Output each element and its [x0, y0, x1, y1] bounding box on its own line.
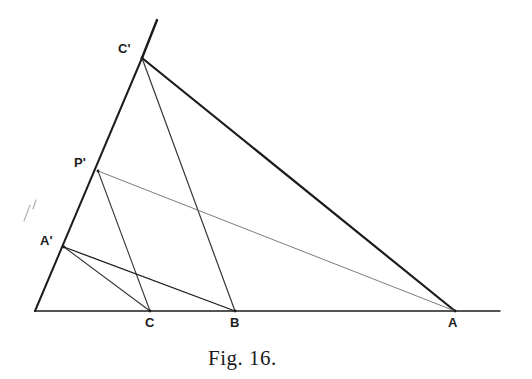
vertex-label-Cp: C' [118, 42, 130, 55]
artifact-group [24, 200, 36, 221]
segment-group [35, 20, 500, 311]
vertex-label-B: B [230, 316, 239, 329]
Ap-to-B [64, 247, 235, 311]
vertex-label-Ap: A' [40, 234, 52, 247]
figure-caption: Fig. 16. [208, 348, 277, 369]
vertex-dot-Cp [141, 57, 144, 60]
vertex-dot-Pp [97, 170, 100, 173]
scan-speck-lower [24, 205, 30, 221]
vertex-dot-Ap [63, 246, 66, 249]
vertex-dot-group [63, 57, 457, 313]
vertex-label-Pp: P' [74, 156, 86, 169]
vertex-dot-C [149, 310, 152, 313]
left-ray-extension [142, 20, 157, 58]
figure-page: CBAA'P'C' Fig. 16. [0, 0, 532, 379]
vertex-label-C: C [145, 316, 154, 329]
left-ray-O-to-Cp [35, 58, 142, 311]
Pp-to-C [98, 171, 150, 311]
scan-speck-upper [33, 200, 36, 209]
Pp-to-A [98, 171, 455, 311]
vertex-dot-B [234, 310, 237, 313]
Ap-to-C [64, 247, 150, 311]
vertex-dot-A [454, 310, 457, 313]
vertex-label-A: A [448, 316, 457, 329]
